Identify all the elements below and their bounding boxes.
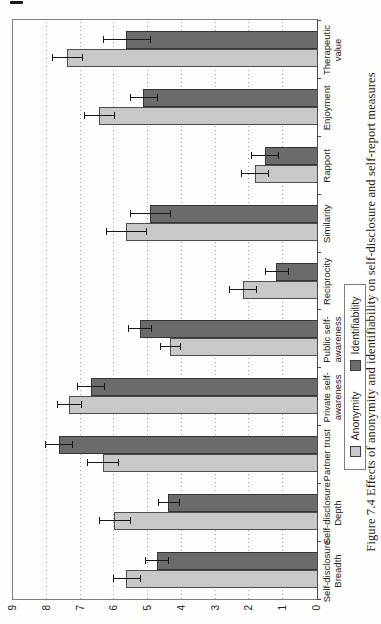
- y-axis-label-6: 6: [108, 605, 119, 624]
- bar-anonymity-7: [255, 165, 317, 183]
- bar-anonymity-6: [126, 223, 317, 241]
- error-bar-cap: [99, 517, 100, 524]
- y-axis-label-9: 9: [7, 605, 18, 624]
- error-bar-cap: [87, 459, 88, 466]
- error-bar-cap: [265, 268, 266, 275]
- error-bar-cap: [168, 557, 169, 564]
- error-bar-anonymity-1: [99, 520, 129, 521]
- error-bar-cap: [151, 325, 152, 332]
- error-bar-cap: [130, 210, 131, 217]
- error-bar-cap: [157, 94, 158, 101]
- figure-rotated-container: 0123456789 Self-disclosure BreadthSelf-d…: [0, 0, 381, 624]
- bar-identifiability-3: [91, 378, 317, 396]
- error-bar-cap: [278, 152, 279, 159]
- bar-identifiability-8: [143, 89, 317, 107]
- bar-identifiability-0: [157, 552, 317, 570]
- bar-identifiability-6: [150, 205, 317, 223]
- error-bar-cap: [45, 441, 46, 448]
- error-bar-cap: [104, 383, 105, 390]
- error-bar-identifiability-0: [145, 560, 169, 561]
- error-bar-anonymity-0: [113, 578, 140, 579]
- error-bar-identifiability-2: [45, 444, 72, 445]
- error-bar-identifiability-6: [130, 213, 171, 214]
- bar-anonymity-4: [170, 338, 317, 356]
- error-bar-cap: [145, 557, 146, 564]
- bar-identifiability-9: [126, 31, 317, 49]
- error-bar-cap: [150, 36, 151, 43]
- error-bar-cap: [229, 286, 230, 293]
- plot-area: [12, 19, 318, 600]
- error-bar-anonymity-4: [160, 346, 180, 347]
- error-bar-cap: [179, 499, 180, 506]
- bar-identifiability-5: [276, 263, 317, 281]
- error-bar-identifiability-1: [158, 502, 178, 503]
- error-bar-cap: [57, 401, 58, 408]
- y-axis-label-1: 1: [277, 605, 288, 624]
- error-bar-cap: [160, 343, 161, 350]
- bar-anonymity-2: [103, 454, 317, 472]
- bar-identifiability-2: [59, 436, 317, 454]
- error-bar-identifiability-8: [130, 97, 157, 98]
- y-axis-label-0: 0: [311, 605, 322, 624]
- error-bar-anonymity-5: [229, 289, 256, 290]
- error-bar-cap: [113, 575, 114, 582]
- error-bar-cap: [130, 94, 131, 101]
- error-bar-cap: [170, 210, 171, 217]
- y-axis-label-2: 2: [243, 605, 254, 624]
- error-bar-cap: [268, 170, 269, 177]
- figure-caption: Figure 7.4 Effects of anonymity and iden…: [364, 0, 379, 624]
- y-axis-label-4: 4: [176, 605, 187, 624]
- bar-anonymity-5: [243, 281, 317, 299]
- anonymity-swatch: [350, 446, 361, 457]
- bar-identifiability-4: [140, 320, 317, 338]
- y-axis-label-5: 5: [142, 605, 153, 624]
- error-bar-identifiability-3: [77, 386, 104, 387]
- y-axis-label-8: 8: [41, 605, 52, 624]
- error-bar-identifiability-9: [103, 39, 150, 40]
- bar-anonymity-8: [99, 107, 317, 125]
- error-bar-anonymity-6: [106, 231, 147, 232]
- error-bar-cap: [158, 499, 159, 506]
- error-bar-cap: [84, 112, 85, 119]
- identifiability-swatch: [350, 360, 361, 371]
- error-bar-cap: [180, 343, 181, 350]
- error-bar-cap: [72, 441, 73, 448]
- legend-label-anonymity: Anonymity: [349, 391, 361, 440]
- error-bar-anonymity-2: [87, 462, 117, 463]
- error-bar-cap: [81, 401, 82, 408]
- bar-identifiability-7: [265, 147, 317, 165]
- scanned-page: 0123456789 Self-disclosure BreadthSelf-d…: [0, 0, 381, 624]
- bar-anonymity-3: [69, 396, 317, 414]
- category-label: Therapeutic value: [321, 14, 343, 86]
- error-bar-cap: [103, 36, 104, 43]
- error-bar-cap: [130, 517, 131, 524]
- error-bar-cap: [251, 152, 252, 159]
- error-bar-cap: [241, 170, 242, 177]
- legend-label-identifiability: Identifiability: [349, 297, 361, 355]
- error-bar-cap: [146, 228, 147, 235]
- error-bar-anonymity-7: [241, 173, 268, 174]
- error-bar-identifiability-5: [265, 271, 289, 272]
- bar-anonymity-0: [126, 570, 317, 588]
- error-bar-cap: [118, 459, 119, 466]
- gridline-7: [80, 20, 81, 599]
- error-bar-identifiability-7: [251, 155, 278, 156]
- error-bar-cap: [256, 286, 257, 293]
- y-axis-label-3: 3: [210, 605, 221, 624]
- error-bar-identifiability-4: [128, 328, 152, 329]
- bar-anonymity-9: [67, 49, 317, 67]
- error-bar-cap: [140, 575, 141, 582]
- error-bar-anonymity-8: [84, 115, 114, 116]
- error-bar-cap: [128, 325, 129, 332]
- error-bar-anonymity-9: [52, 57, 82, 58]
- error-bar-cap: [288, 268, 289, 275]
- error-bar-cap: [114, 112, 115, 119]
- y-axis-label-7: 7: [75, 605, 86, 624]
- error-bar-cap: [82, 54, 83, 61]
- error-bar-cap: [52, 54, 53, 61]
- error-bar-cap: [106, 228, 107, 235]
- bar-identifiability-1: [168, 494, 317, 512]
- gridline-8: [46, 20, 47, 599]
- legend: Anonymity Identifiability: [344, 284, 366, 470]
- error-bar-anonymity-3: [57, 404, 81, 405]
